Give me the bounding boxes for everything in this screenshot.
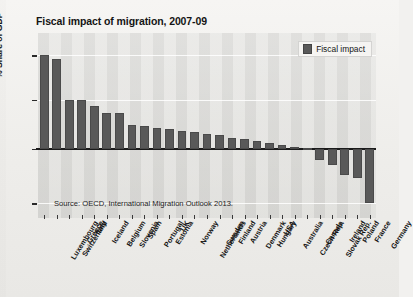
bar [77, 100, 86, 149]
y-axis-label: % Share of GDP [0, 13, 4, 78]
x-axis-tick [107, 215, 108, 219]
x-axis-label: Norway [198, 219, 220, 246]
chart-title: Fiscal impact of migration, 2007-09 [36, 15, 207, 27]
x-axis-tick [332, 215, 333, 219]
x-axis-tick [357, 215, 358, 219]
plot-area: Fiscal impact Source: OECD, Internationa… [38, 33, 376, 218]
x-axis-tick [57, 215, 58, 219]
bar [178, 131, 187, 149]
chart-legend: Fiscal impact [298, 41, 372, 57]
bar [90, 106, 99, 149]
x-axis-tick [257, 215, 258, 219]
x-axis-tick [157, 215, 158, 219]
x-axis-tick [94, 215, 95, 219]
y-axis-tick [32, 100, 37, 102]
x-axis-tick [169, 215, 170, 219]
bar [228, 138, 237, 149]
x-axis-label: Spain [145, 219, 163, 241]
x-axis-tick [307, 215, 308, 219]
bar [340, 149, 349, 175]
x-axis-tick [370, 215, 371, 219]
x-axis-tick [44, 215, 45, 219]
x-axis-tick [119, 215, 120, 219]
x-axis-tick [69, 215, 70, 219]
bar [278, 145, 287, 149]
x-axis-tick [82, 215, 83, 219]
x-axis-tick [270, 215, 271, 219]
bar [115, 113, 124, 149]
x-axis-tick [295, 215, 296, 219]
bar [52, 59, 61, 149]
bar [65, 100, 74, 149]
x-axis-tick [245, 215, 246, 219]
legend-swatch-icon [303, 44, 312, 54]
x-axis-tick [320, 215, 321, 219]
x-axis-labels: LuxembourgSwitzerlandGreeceItalyIcelandB… [38, 219, 376, 297]
bar [253, 141, 262, 149]
y-axis-tick [32, 55, 37, 57]
bar [290, 147, 299, 149]
bar-series [38, 33, 376, 218]
x-axis-tick [207, 215, 208, 219]
bar [102, 113, 111, 149]
bar [240, 139, 249, 149]
bar [328, 149, 337, 165]
bar [40, 55, 49, 149]
bar [353, 149, 362, 178]
x-axis-tick [144, 215, 145, 219]
bar [203, 134, 212, 149]
y-axis-tick [32, 203, 37, 205]
bar [265, 143, 274, 149]
bar [303, 148, 312, 150]
bar [315, 149, 324, 160]
legend-label: Fiscal impact [316, 44, 365, 54]
x-axis-tick [132, 215, 133, 219]
source-note: Source: OECD, International Migration Ou… [54, 199, 233, 208]
bar [153, 128, 162, 149]
x-axis-tick [182, 215, 183, 219]
bar [128, 125, 137, 149]
bar [215, 135, 224, 149]
bar [165, 129, 174, 149]
x-axis-tick [232, 215, 233, 219]
bar [140, 126, 149, 149]
x-axis-tick [345, 215, 346, 219]
x-axis-tick [282, 215, 283, 219]
x-axis-tick [220, 215, 221, 219]
bar [190, 132, 199, 149]
bar [365, 149, 374, 203]
x-axis-tick [194, 215, 195, 219]
